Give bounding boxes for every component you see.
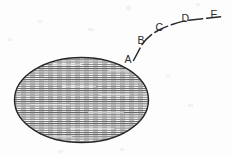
point-label-d: D [182,12,190,24]
point-label-a: A [125,53,132,65]
rising-dashed-curve [134,17,225,61]
figure-canvas: A B C D E [0,0,232,155]
point-label-e: E [211,8,218,20]
point-label-c: C [156,21,164,33]
figure-svg: A B C D E [0,0,232,155]
point-label-b: B [138,34,145,46]
